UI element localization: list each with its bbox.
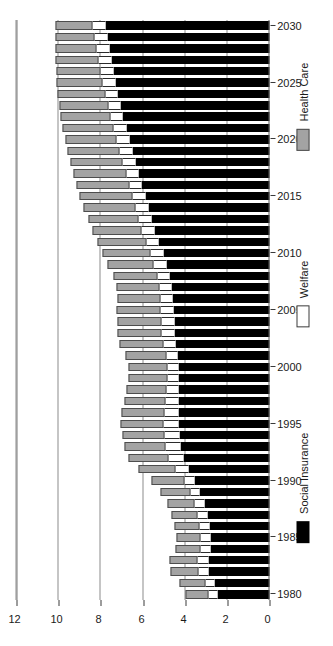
segment-wf-2010	[150, 249, 163, 257]
value-tick-mark	[269, 600, 270, 606]
segment-wf-2022	[110, 112, 123, 120]
segment-si-1996	[178, 408, 269, 416]
segment-hc-2000	[128, 363, 167, 371]
bar-2017	[16, 169, 269, 177]
segment-hc-2011	[97, 238, 145, 246]
segment-wf-1990	[184, 476, 195, 484]
segment-si-1994	[179, 431, 269, 439]
bar-2022	[16, 112, 269, 120]
segment-wf-1998	[166, 385, 179, 393]
bar-2021	[16, 124, 269, 132]
segment-wf-2020	[116, 135, 129, 143]
segment-hc-1984	[175, 545, 200, 553]
segment-wf-2027	[98, 56, 111, 64]
segment-si-2016	[141, 181, 269, 189]
bar-1992	[16, 454, 269, 462]
segment-wf-1984	[200, 545, 209, 553]
bar-1995	[16, 420, 269, 428]
segment-hc-2028	[55, 44, 96, 52]
bar-2002	[16, 340, 269, 348]
bar-1999	[16, 374, 269, 382]
segment-hc-2026	[56, 67, 100, 75]
segment-si-1999	[178, 374, 269, 382]
segment-hc-1985	[176, 533, 200, 541]
bar-2014	[16, 203, 269, 211]
segment-si-1986	[209, 522, 269, 530]
segment-wf-2006	[160, 294, 172, 302]
bar-2026	[16, 67, 269, 75]
segment-wf-1985	[200, 533, 209, 541]
bar-2018	[16, 158, 269, 166]
segment-wf-1993	[165, 442, 181, 450]
segment-si-2023	[120, 101, 269, 109]
segment-si-2021	[126, 124, 269, 132]
segment-si-2026	[113, 67, 269, 75]
segment-hc-2006	[117, 294, 160, 302]
segment-hc-2027	[55, 56, 98, 64]
bar-2024	[16, 90, 269, 98]
category-tick-label-2000: 2000	[273, 361, 305, 373]
segment-si-2019	[132, 147, 269, 155]
segment-wf-1983	[197, 556, 208, 564]
segment-hc-1995	[120, 420, 162, 428]
segment-si-2024	[117, 90, 269, 98]
chart-figure: 024681012 198019851990199520002005201020…	[0, 0, 333, 646]
segment-wf-2000	[167, 363, 179, 371]
segment-si-2022	[122, 112, 269, 120]
value-tick-label: 2	[214, 613, 236, 625]
segment-hc-2029	[55, 33, 94, 41]
bar-1989	[16, 488, 269, 496]
segment-hc-2010	[102, 249, 149, 257]
segment-hc-2021	[62, 124, 113, 132]
segment-wf-2021	[113, 124, 126, 132]
segment-si-2002	[175, 340, 269, 348]
segment-hc-2020	[65, 135, 117, 143]
bar-1998	[16, 385, 269, 393]
value-tick-mark	[143, 600, 144, 606]
value-tick-label: 0	[256, 613, 278, 625]
segment-si-2013	[151, 215, 269, 223]
segment-wf-2016	[129, 181, 142, 189]
segment-wf-1992	[168, 454, 183, 462]
segment-si-1985	[210, 533, 269, 541]
bar-2006	[16, 294, 269, 302]
segment-hc-2005	[116, 306, 160, 314]
bar-2016	[16, 181, 269, 189]
value-tick-mark	[227, 600, 228, 606]
segment-si-2000	[178, 363, 269, 371]
bar-2013	[16, 215, 269, 223]
segment-wf-1997	[165, 397, 179, 405]
segment-si-2030	[105, 22, 269, 30]
segment-wf-2030	[92, 22, 105, 30]
segment-hc-2013	[88, 215, 139, 223]
bar-1986	[16, 522, 269, 530]
segment-hc-1989	[160, 488, 190, 496]
value-tick-mark	[58, 600, 59, 606]
segment-wf-2012	[141, 226, 154, 234]
segment-si-2018	[135, 158, 269, 166]
segment-wf-1989	[190, 488, 199, 496]
segment-si-2008	[169, 272, 269, 280]
bar-2025	[16, 78, 269, 86]
bar-1981	[16, 579, 269, 587]
segment-si-1989	[199, 488, 269, 496]
legend-label: Welfare	[297, 261, 309, 299]
segment-hc-2004	[117, 317, 161, 325]
bar-1990	[16, 476, 269, 484]
segment-si-1998	[178, 385, 269, 393]
segment-wf-2019	[119, 147, 132, 155]
segment-wf-1996	[164, 408, 179, 416]
segment-wf-2001	[166, 351, 178, 359]
segment-hc-1991	[138, 465, 175, 473]
category-tick-label-2015: 2015	[273, 190, 305, 202]
bar-2003	[16, 329, 269, 337]
bar-1985	[16, 533, 269, 541]
segment-hc-2025	[56, 78, 102, 86]
segment-wf-2009	[153, 260, 166, 268]
segment-hc-2002	[119, 340, 162, 348]
segment-hc-2019	[67, 147, 120, 155]
legend-item-social-insurance: Social Insurance	[296, 433, 309, 543]
segment-hc-1990	[151, 476, 184, 484]
segment-wf-2017	[126, 169, 139, 177]
bar-2029	[16, 33, 269, 41]
